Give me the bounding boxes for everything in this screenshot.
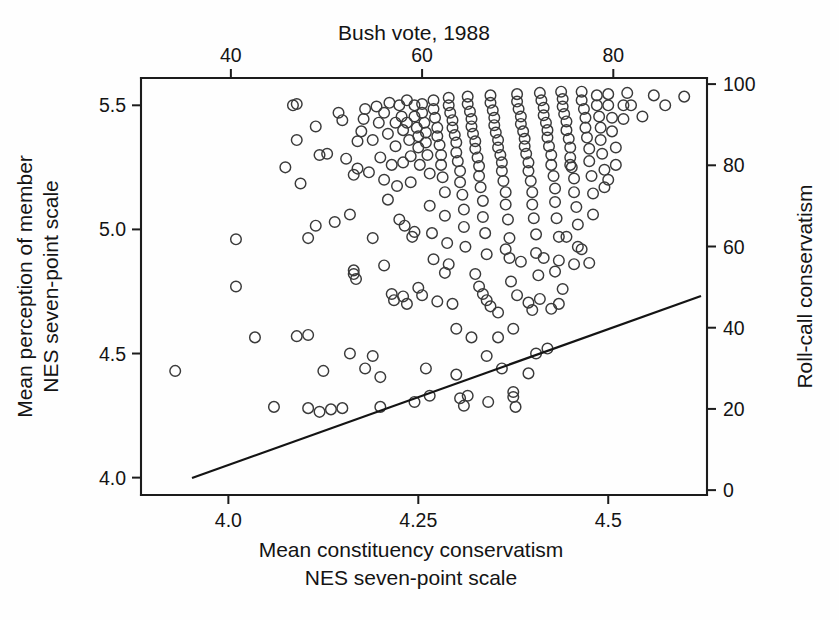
data-point bbox=[451, 323, 462, 334]
data-point bbox=[588, 188, 599, 199]
data-point bbox=[250, 332, 261, 343]
data-point bbox=[310, 220, 321, 231]
data-point bbox=[679, 91, 690, 102]
ticklabel-right: 60 bbox=[723, 236, 745, 258]
data-point bbox=[402, 95, 413, 106]
data-point bbox=[531, 229, 542, 240]
data-point bbox=[493, 307, 504, 318]
data-point bbox=[379, 174, 390, 185]
data-point bbox=[580, 122, 591, 133]
data-point bbox=[445, 107, 456, 118]
data-point bbox=[487, 105, 498, 116]
ticklabel-right: 80 bbox=[723, 154, 745, 176]
data-point bbox=[527, 187, 538, 198]
data-point bbox=[364, 167, 375, 178]
data-point bbox=[493, 142, 504, 153]
data-point bbox=[474, 171, 485, 182]
data-point bbox=[303, 403, 314, 414]
data-point bbox=[595, 135, 606, 146]
data-point bbox=[512, 96, 523, 107]
data-point bbox=[386, 160, 397, 171]
data-point bbox=[424, 168, 435, 179]
data-point bbox=[559, 109, 570, 120]
data-point bbox=[421, 363, 432, 374]
data-point bbox=[436, 150, 447, 161]
data-point bbox=[495, 150, 506, 161]
data-point bbox=[481, 351, 492, 362]
data-point bbox=[535, 88, 546, 99]
data-point bbox=[512, 290, 523, 301]
data-point bbox=[576, 244, 587, 255]
ticklabel-left: 5.5 bbox=[99, 94, 126, 116]
data-point bbox=[415, 160, 426, 171]
data-point bbox=[660, 100, 671, 111]
data-point bbox=[485, 98, 496, 109]
data-point bbox=[341, 153, 352, 164]
axis-tick-labels: 4060804.04.254.54.04.55.05.5020406080100 bbox=[99, 44, 756, 531]
data-point bbox=[571, 202, 582, 213]
data-point bbox=[569, 259, 580, 270]
data-point bbox=[314, 407, 325, 418]
data-point bbox=[554, 255, 565, 266]
data-point bbox=[595, 122, 606, 133]
data-point bbox=[440, 210, 451, 221]
data-point bbox=[419, 117, 430, 128]
data-point bbox=[480, 228, 491, 239]
data-point bbox=[468, 129, 479, 140]
data-point bbox=[466, 121, 477, 132]
ticklabel-right: 100 bbox=[723, 73, 756, 95]
data-point bbox=[611, 142, 622, 153]
data-point bbox=[483, 397, 494, 408]
data-point bbox=[303, 233, 314, 244]
data-point bbox=[329, 217, 340, 228]
data-point bbox=[513, 104, 524, 115]
data-point bbox=[551, 213, 562, 224]
data-point bbox=[478, 196, 489, 207]
data-point bbox=[427, 228, 438, 239]
data-point bbox=[367, 135, 378, 146]
data-point bbox=[603, 89, 614, 100]
data-point bbox=[584, 143, 595, 154]
data-point bbox=[322, 148, 333, 159]
data-point bbox=[557, 284, 568, 295]
data-point bbox=[607, 112, 618, 123]
regression-line bbox=[192, 296, 701, 478]
data-point bbox=[437, 172, 448, 183]
data-point bbox=[337, 403, 348, 414]
data-point bbox=[405, 151, 416, 162]
ticklabel-right: 20 bbox=[723, 398, 745, 420]
data-point bbox=[556, 86, 567, 97]
ticklabel-bottom: 4.5 bbox=[595, 509, 622, 531]
data-point bbox=[379, 107, 390, 118]
data-point bbox=[449, 130, 460, 141]
data-point bbox=[421, 137, 432, 148]
data-point bbox=[345, 348, 356, 359]
data-point bbox=[504, 233, 515, 244]
data-point bbox=[348, 170, 359, 181]
data-point bbox=[508, 323, 519, 334]
data-point bbox=[503, 214, 514, 225]
data-point bbox=[573, 241, 584, 252]
data-point bbox=[318, 366, 329, 377]
data-point bbox=[554, 299, 565, 310]
data-point bbox=[383, 194, 394, 205]
data-point bbox=[546, 304, 557, 315]
data-points bbox=[170, 86, 690, 417]
data-point bbox=[557, 101, 568, 112]
data-point bbox=[584, 258, 595, 269]
data-point bbox=[569, 187, 580, 198]
data-point bbox=[384, 98, 395, 109]
ticklabel-top: 60 bbox=[411, 44, 433, 66]
data-point bbox=[405, 177, 416, 188]
data-point bbox=[432, 296, 443, 307]
data-point bbox=[394, 100, 405, 111]
data-point bbox=[310, 121, 321, 132]
data-point bbox=[626, 100, 637, 111]
data-point bbox=[550, 266, 561, 277]
data-point bbox=[352, 136, 363, 147]
data-point bbox=[360, 104, 371, 115]
plot-canvas: 4060804.04.254.54.04.55.05.5020406080100… bbox=[0, 0, 839, 620]
data-point bbox=[451, 137, 462, 148]
data-point bbox=[569, 173, 580, 184]
data-point bbox=[457, 189, 468, 200]
